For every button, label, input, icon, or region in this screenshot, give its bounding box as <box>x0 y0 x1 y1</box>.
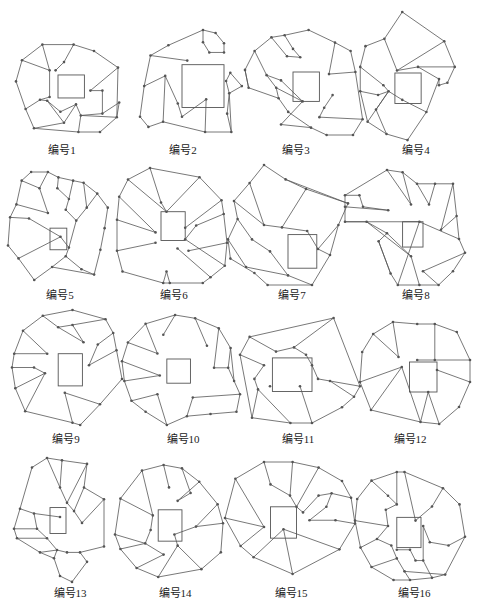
graph-node <box>437 284 440 287</box>
graph-node <box>103 498 106 501</box>
graph-edge <box>228 219 238 239</box>
graph-node <box>311 422 314 425</box>
graph-node <box>361 351 364 354</box>
graph-edge <box>196 214 224 226</box>
graph-node <box>359 381 362 384</box>
graph-node <box>66 551 69 554</box>
graph-node <box>241 85 244 88</box>
graph-node <box>235 411 238 414</box>
graph-edge <box>372 472 397 481</box>
graph-node <box>48 96 51 99</box>
central-square <box>161 212 185 241</box>
graph-panel-11 <box>239 317 362 425</box>
graph-edge <box>76 104 81 115</box>
graph-node <box>96 192 99 195</box>
graph-edge <box>417 184 429 205</box>
graph-node <box>121 360 124 363</box>
graph-node <box>453 66 456 69</box>
graph-node <box>229 72 232 75</box>
graph-panel-12 <box>359 321 472 426</box>
graph-node <box>444 573 447 576</box>
graph-node <box>85 206 88 209</box>
caption-2: 编号2 <box>169 141 197 157</box>
graph-node <box>156 393 159 396</box>
graph-node <box>377 94 380 97</box>
graph-node <box>370 409 373 412</box>
graph-node <box>154 241 157 244</box>
graph-node <box>181 467 184 470</box>
graph-edge <box>238 219 252 239</box>
central-square <box>410 362 438 392</box>
graph-edge <box>120 543 145 549</box>
graph-node <box>59 486 62 489</box>
graph-node <box>382 84 385 87</box>
graph-edge <box>12 354 14 368</box>
graph-edge <box>100 117 117 132</box>
graph-edge <box>366 39 385 46</box>
graph-edge <box>254 365 264 379</box>
graph-edge <box>360 91 378 95</box>
graph-node <box>162 282 165 285</box>
graph-edge <box>72 562 87 582</box>
graph-node <box>253 378 256 381</box>
graph-edge <box>8 245 19 258</box>
graph-node <box>72 179 75 182</box>
graph-node <box>403 570 406 573</box>
graph-node <box>396 471 399 474</box>
graph-node <box>410 203 413 206</box>
graph-node <box>216 503 219 506</box>
graph-edge <box>445 537 465 575</box>
graph-node <box>99 248 102 251</box>
graph-edge <box>187 398 193 417</box>
graph-edge <box>15 373 45 388</box>
graph-node <box>352 134 355 137</box>
graph-edge <box>255 37 272 51</box>
graph-node <box>88 364 91 367</box>
graph-edge <box>14 509 20 529</box>
graph-edge <box>47 538 57 550</box>
graph-node <box>217 327 220 330</box>
graph-edge <box>145 530 150 543</box>
graph-node <box>80 114 83 117</box>
graph-node <box>289 494 292 497</box>
graph-edge <box>225 518 264 527</box>
graph-edge <box>115 499 120 535</box>
graph-edge <box>124 381 131 401</box>
graph-node <box>386 232 389 235</box>
graph-node <box>19 507 22 510</box>
graph-node <box>295 506 298 509</box>
graph-node <box>61 459 64 462</box>
graph-edge <box>16 60 22 81</box>
caption-1: 编号1 <box>48 141 76 157</box>
graph-node <box>429 541 432 544</box>
central-square <box>58 75 84 98</box>
graph-edge <box>189 243 228 251</box>
graph-edge <box>252 389 258 417</box>
graph-node <box>22 329 25 332</box>
graph-edge <box>416 507 433 521</box>
graph-node <box>301 100 304 103</box>
graph-edge <box>67 464 87 503</box>
graph-edge <box>218 504 223 523</box>
graph-node <box>204 131 207 134</box>
graph-node <box>233 200 236 203</box>
graph-node <box>205 98 208 101</box>
graph-node <box>117 66 120 69</box>
graph-edge <box>165 76 178 104</box>
graph-node <box>359 90 362 93</box>
graph-node <box>186 59 189 62</box>
graph-node <box>447 544 450 547</box>
graph-edge <box>264 165 286 179</box>
graph-node <box>73 510 76 513</box>
graph-node <box>149 54 152 57</box>
graph-edge <box>386 504 397 509</box>
graph-edge <box>379 241 391 273</box>
graph-node <box>164 75 167 78</box>
graph-edge <box>443 488 460 504</box>
graph-edge <box>324 95 332 108</box>
graph-edge <box>15 388 25 411</box>
graph-edge <box>74 488 84 512</box>
graph-edge <box>185 226 196 240</box>
graph-node <box>299 56 302 59</box>
graph-edge <box>234 381 240 394</box>
